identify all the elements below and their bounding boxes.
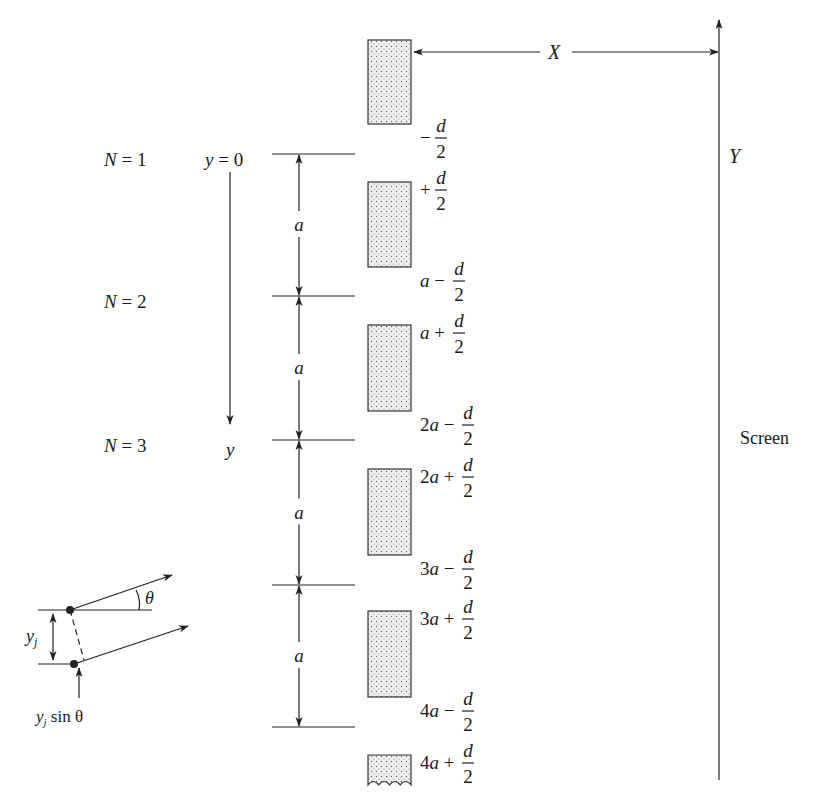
svg-text:2: 2 — [463, 714, 473, 735]
slit-upper-edge-label: +d2 — [420, 167, 447, 214]
spacing-label: a — [294, 645, 304, 666]
path-difference-label: yj sin θ — [34, 707, 83, 728]
svg-text:d: d — [463, 402, 473, 423]
svg-text:2: 2 — [454, 336, 464, 357]
slit-index-label: N = 1 — [103, 149, 146, 170]
svg-text:4a −: 4a − — [420, 700, 454, 721]
svg-text:d: d — [463, 688, 473, 709]
angle-label: θ — [145, 588, 154, 608]
svg-text:d: d — [463, 596, 473, 617]
svg-text:2: 2 — [463, 480, 473, 501]
slit-opening — [368, 755, 411, 785]
distance-dimension: X — [414, 41, 718, 63]
svg-text:d: d — [463, 546, 473, 567]
svg-text:2: 2 — [436, 193, 446, 214]
source-point-icon — [70, 660, 78, 668]
y-axis: y = 0 y — [203, 149, 243, 460]
slit-opening — [368, 182, 411, 267]
svg-text:d: d — [454, 258, 464, 279]
slit-index-label: N = 2 — [103, 291, 146, 312]
svg-text:2a −: 2a − — [420, 414, 454, 435]
slit-opening — [368, 611, 411, 697]
slit-lower-edge-label: −d2 — [420, 115, 447, 162]
slit-upper-edge-label: 2a +d2 — [420, 454, 474, 501]
slit-stack: −d2+d2a −d2a +d22a −d22a +d23a −d23a +d2… — [368, 40, 474, 787]
svg-text:2: 2 — [463, 572, 473, 593]
slit-opening — [368, 325, 411, 411]
svg-text:−: − — [420, 127, 431, 148]
spacing-dimensions: aaaa — [272, 154, 355, 727]
svg-text:d: d — [454, 310, 464, 331]
slit-lower-edge-label: 2a −d2 — [420, 402, 474, 449]
source-point-icon — [66, 606, 74, 614]
screen-axis-label: Y — [729, 145, 742, 167]
path-difference-inset: θ yj yj sin θ — [24, 575, 188, 728]
slit-upper-edge-label: 4a +d2 — [420, 740, 474, 787]
slit-opening — [368, 40, 411, 124]
diffraction-diagram: −d2+d2a −d2a +d22a −d22a +d23a −d23a +d2… — [0, 0, 825, 812]
slit-index-label: N = 3 — [103, 435, 146, 456]
y-origin-label: y = 0 — [203, 149, 243, 170]
svg-text:4a +: 4a + — [420, 752, 454, 773]
slit-index-labels: N = 1N = 2N = 3 — [103, 149, 146, 456]
svg-text:d: d — [436, 115, 446, 136]
svg-text:3a −: 3a − — [420, 558, 454, 579]
svg-text:d: d — [436, 167, 446, 188]
svg-text:2: 2 — [463, 428, 473, 449]
svg-text:2: 2 — [436, 141, 446, 162]
spacing-label: a — [294, 357, 304, 378]
screen: Y Screen — [719, 20, 789, 780]
svg-text:a +: a + — [420, 322, 445, 343]
separation-label: yj — [24, 626, 38, 649]
svg-text:a −: a − — [420, 270, 445, 291]
slit-opening — [368, 469, 411, 555]
slit-lower-edge-label: 4a −d2 — [420, 688, 474, 735]
svg-text:2: 2 — [463, 622, 473, 643]
slit-upper-edge-label: 3a +d2 — [420, 596, 474, 643]
svg-text:2: 2 — [463, 766, 473, 787]
spacing-label: a — [294, 502, 304, 523]
screen-label: Screen — [740, 428, 789, 448]
svg-text:3a +: 3a + — [420, 608, 454, 629]
svg-text:2a +: 2a + — [420, 466, 454, 487]
distance-label: X — [547, 41, 561, 63]
svg-text:2: 2 — [454, 284, 464, 305]
svg-text:d: d — [463, 740, 473, 761]
svg-text:+: + — [420, 179, 431, 200]
y-axis-label: y — [224, 439, 235, 460]
slit-upper-edge-label: a +d2 — [420, 310, 465, 357]
slit-lower-edge-label: a −d2 — [420, 258, 465, 305]
slit-lower-edge-label: 3a −d2 — [420, 546, 474, 593]
svg-text:d: d — [463, 454, 473, 475]
spacing-label: a — [294, 214, 304, 235]
